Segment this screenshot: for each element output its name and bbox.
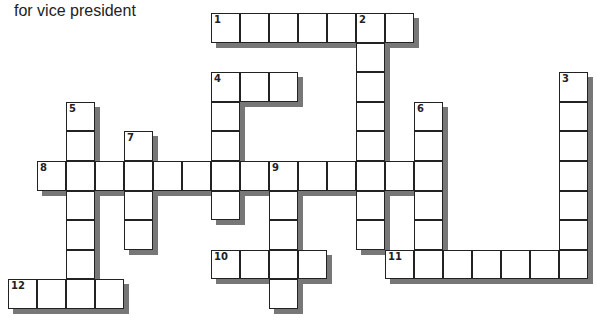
- crossword-cell[interactable]: [269, 191, 298, 221]
- crossword-cell[interactable]: 3: [559, 72, 588, 102]
- crossword-cell[interactable]: [559, 220, 588, 250]
- crossword-cell[interactable]: [66, 250, 95, 280]
- crossword-cell[interactable]: [124, 161, 153, 191]
- crossword-cell[interactable]: [37, 279, 66, 309]
- clue-fragment-text: for vice president: [14, 2, 136, 20]
- crossword-cell[interactable]: [356, 102, 385, 132]
- clue-number: 6: [417, 103, 424, 114]
- crossword-cell[interactable]: [211, 102, 240, 132]
- crossword-cell[interactable]: [240, 72, 269, 102]
- clue-number: 12: [11, 280, 25, 291]
- crossword-cell[interactable]: 10: [211, 250, 240, 280]
- crossword-cell[interactable]: [414, 161, 443, 191]
- crossword-cell[interactable]: [66, 279, 95, 309]
- crossword-cell[interactable]: 5: [66, 102, 95, 132]
- crossword-cell[interactable]: [269, 72, 298, 102]
- crossword-cell[interactable]: 12: [8, 279, 37, 309]
- clue-number: 5: [69, 103, 76, 114]
- crossword-cell[interactable]: [472, 250, 501, 280]
- clue-number: 11: [388, 251, 402, 262]
- crossword-cell[interactable]: [327, 13, 356, 43]
- crossword-cell[interactable]: [559, 102, 588, 132]
- crossword-cell[interactable]: [66, 161, 95, 191]
- crossword-cell[interactable]: [559, 161, 588, 191]
- crossword-cell[interactable]: 1: [211, 13, 240, 43]
- crossword-cell[interactable]: [356, 72, 385, 102]
- crossword-cell[interactable]: [269, 250, 298, 280]
- crossword-cell[interactable]: [240, 161, 269, 191]
- crossword-cell[interactable]: [530, 250, 559, 280]
- crossword-cell[interactable]: 7: [124, 131, 153, 161]
- crossword-cell[interactable]: [298, 250, 327, 280]
- crossword-cell[interactable]: [298, 13, 327, 43]
- crossword-cell[interactable]: [298, 161, 327, 191]
- crossword-cell[interactable]: [66, 220, 95, 250]
- crossword-cell[interactable]: [95, 161, 124, 191]
- clue-number: 3: [562, 73, 569, 84]
- crossword-cell[interactable]: [66, 131, 95, 161]
- crossword-cell[interactable]: [559, 191, 588, 221]
- crossword-cell[interactable]: [414, 191, 443, 221]
- crossword-cell[interactable]: [269, 13, 298, 43]
- crossword-cell[interactable]: [95, 279, 124, 309]
- crossword-cell[interactable]: [211, 161, 240, 191]
- clue-number: 4: [214, 73, 221, 84]
- clue-number: 8: [40, 162, 47, 173]
- crossword-cell[interactable]: 2: [356, 13, 385, 43]
- crossword-cell[interactable]: [385, 161, 414, 191]
- crossword-cell[interactable]: 6: [414, 102, 443, 132]
- crossword-cell[interactable]: [124, 191, 153, 221]
- crossword-cell[interactable]: [182, 161, 211, 191]
- crossword-cell[interactable]: [356, 161, 385, 191]
- crossword-cell[interactable]: [240, 13, 269, 43]
- crossword-cell[interactable]: [414, 250, 443, 280]
- crossword-cell[interactable]: 11: [385, 250, 414, 280]
- crossword-cell[interactable]: [269, 279, 298, 309]
- crossword-cell[interactable]: [240, 250, 269, 280]
- crossword-cell[interactable]: 4: [211, 72, 240, 102]
- crossword-cell[interactable]: [327, 161, 356, 191]
- clue-number: 9: [272, 162, 279, 173]
- crossword-cell[interactable]: [66, 191, 95, 221]
- crossword-cell[interactable]: [501, 250, 530, 280]
- crossword-cell[interactable]: [269, 220, 298, 250]
- crossword-cell[interactable]: [414, 131, 443, 161]
- crossword-cell[interactable]: [443, 250, 472, 280]
- clue-number: 7: [127, 132, 134, 143]
- crossword-cell[interactable]: [356, 220, 385, 250]
- crossword-cell[interactable]: 9: [269, 161, 298, 191]
- crossword-cell[interactable]: 8: [37, 161, 66, 191]
- crossword-cell[interactable]: [211, 191, 240, 221]
- clue-number: 1: [214, 14, 221, 25]
- crossword-cell[interactable]: [356, 131, 385, 161]
- crossword-cell[interactable]: [153, 161, 182, 191]
- crossword-cell[interactable]: [414, 220, 443, 250]
- crossword-cell[interactable]: [356, 191, 385, 221]
- crossword-cell[interactable]: [559, 250, 588, 280]
- crossword-cell[interactable]: [356, 43, 385, 73]
- crossword-cell[interactable]: [211, 131, 240, 161]
- crossword-cell[interactable]: [124, 220, 153, 250]
- clue-number: 2: [359, 14, 366, 25]
- crossword-cell[interactable]: [385, 13, 414, 43]
- clue-number: 10: [214, 251, 228, 262]
- crossword-cell[interactable]: [559, 131, 588, 161]
